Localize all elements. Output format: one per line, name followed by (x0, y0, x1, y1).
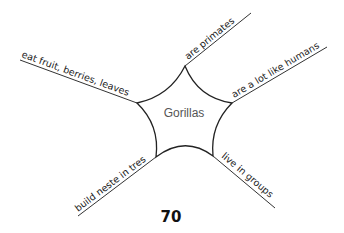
page-number: 70 (161, 208, 182, 226)
branch-line-build-nests (78, 157, 156, 216)
branch-label-build-nests: build neste in tres (73, 153, 148, 213)
branch-label-eat-fruit: eat fruit, berries, leaves (20, 49, 131, 98)
branch-line-eat-fruit (20, 60, 137, 103)
branch-line-are-primates (185, 13, 251, 66)
branch-label-lot-like-humans: are a lot like humans (229, 40, 321, 100)
branch-label-are-primates: are primates (182, 15, 236, 62)
web-diagram: Gorillas are primates are a lot like hum… (0, 0, 344, 233)
branch-line-lot-like-humans (232, 47, 327, 103)
branch-label-live-in-groups: live in groups (220, 150, 276, 200)
center-label: Gorillas (164, 106, 205, 120)
